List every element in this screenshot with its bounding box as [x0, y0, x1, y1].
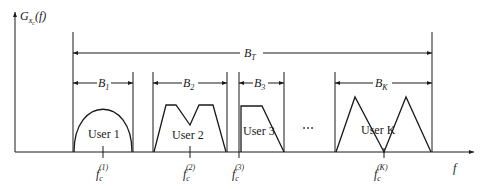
b2-label: B2	[183, 76, 194, 92]
fc1-label: fc(1)	[96, 163, 109, 183]
user-2-label: User 2	[172, 128, 204, 142]
b1-label: B1	[98, 76, 109, 92]
bt-label: BT	[244, 46, 256, 62]
user-3-label: User 3	[243, 124, 275, 138]
fc2-label: fc(2)	[183, 163, 196, 183]
user-k-label: User K	[361, 123, 396, 137]
ellipsis: ⋯	[302, 121, 314, 135]
user-2-band: B2 User 2 fc(2)	[153, 72, 227, 183]
user-k-band: BK User K fc(K)	[335, 72, 432, 183]
user-1-band: B1 User 1 fc(1)	[73, 72, 133, 183]
x-axis-label: f	[453, 161, 458, 175]
b3-label: B3	[254, 76, 265, 92]
fck-label: fc(K)	[374, 163, 388, 183]
user-1-label: User 1	[88, 127, 120, 141]
bk-label: BK	[375, 76, 388, 92]
fdma-spectrum-diagram: Gxc(f) f BT B1 User 1 fc(1) B2 User 2 fc…	[0, 0, 482, 189]
fc3-label: fc(3)	[232, 163, 245, 183]
y-axis-label: Gxc(f)	[20, 9, 46, 26]
user-3-band: B3 User 3 fc(3)	[232, 72, 284, 183]
